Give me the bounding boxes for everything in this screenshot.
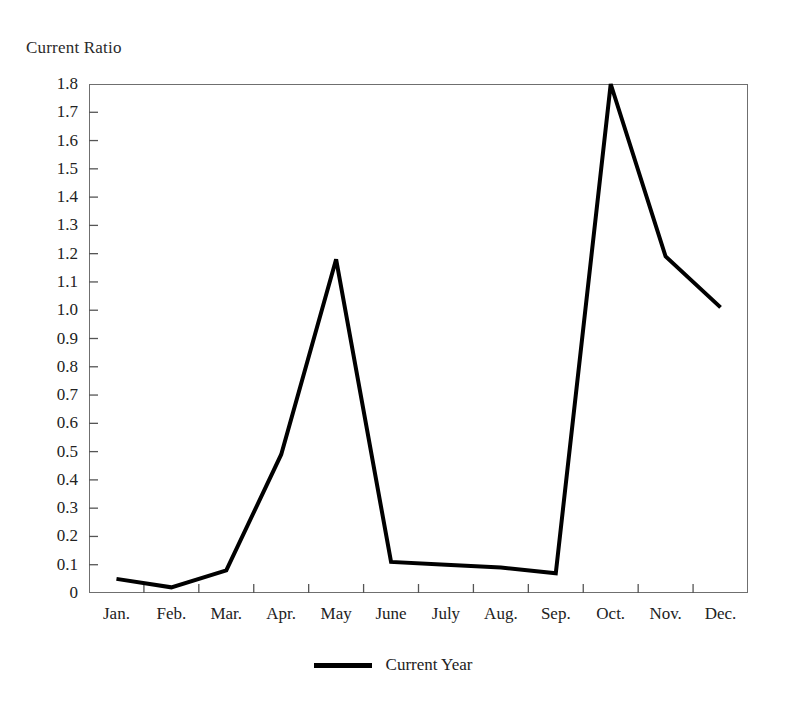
x-axis-tick-label: Sep. bbox=[541, 604, 571, 624]
y-axis-tick-label: 0.8 bbox=[22, 357, 78, 377]
y-axis-tick-label: 1.1 bbox=[22, 272, 78, 292]
x-axis-tick-label: Feb. bbox=[157, 604, 187, 624]
x-axis-tick-label: Nov. bbox=[649, 604, 681, 624]
legend-label-current-year: Current Year bbox=[386, 655, 473, 675]
x-axis-tick-label: Jan. bbox=[103, 604, 130, 624]
y-axis-tick-label: 1.0 bbox=[22, 300, 78, 320]
x-axis-tick-label: May bbox=[321, 604, 352, 624]
y-axis-tick-label: 0.5 bbox=[22, 442, 78, 462]
plot-area bbox=[89, 84, 748, 593]
y-axis-tick-label: 0 bbox=[22, 583, 78, 603]
x-axis-tick-label: Oct. bbox=[596, 604, 625, 624]
y-axis-tick-label: 1.3 bbox=[22, 215, 78, 235]
y-axis-tick-label: 0.1 bbox=[22, 555, 78, 575]
y-axis-tick-label: 0.3 bbox=[22, 498, 78, 518]
y-axis-tick-label: 0.2 bbox=[22, 526, 78, 546]
y-axis-tick-label: 1.4 bbox=[22, 187, 78, 207]
x-axis-tick-label: Mar. bbox=[210, 604, 242, 624]
chart-container: Current Ratio 1.81.71.61.51.41.31.21.11.… bbox=[0, 0, 786, 706]
y-axis-tick-label: 1.5 bbox=[22, 159, 78, 179]
y-axis-tick-label: 0.7 bbox=[22, 385, 78, 405]
x-axis-tick-label: July bbox=[432, 604, 460, 624]
y-axis-tick-label: 1.7 bbox=[22, 102, 78, 122]
y-axis-tick-label: 1.8 bbox=[22, 74, 78, 94]
y-axis-tick-label: 0.4 bbox=[22, 470, 78, 490]
x-axis-tick-label: Dec. bbox=[705, 604, 737, 624]
legend-swatch-current-year bbox=[314, 663, 372, 668]
y-axis-tick-label: 1.6 bbox=[22, 131, 78, 151]
chart-axis-title: Current Ratio bbox=[26, 38, 122, 58]
y-axis-tick-label: 0.6 bbox=[22, 413, 78, 433]
chart-legend: Current Year bbox=[0, 655, 786, 675]
x-axis-tick-label: Apr. bbox=[266, 604, 296, 624]
x-axis-tick-label: June bbox=[375, 604, 406, 624]
y-axis-tick-label: 1.2 bbox=[22, 244, 78, 264]
x-axis-tick-label: Aug. bbox=[484, 604, 518, 624]
y-axis-tick-label: 0.9 bbox=[22, 329, 78, 349]
